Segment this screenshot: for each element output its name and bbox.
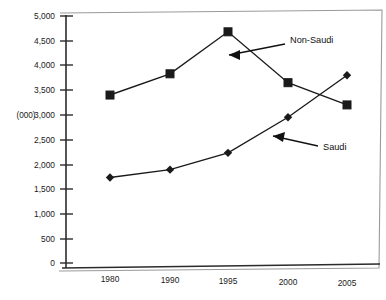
y-tick-label-1500: 1,500 xyxy=(34,184,55,194)
y-tick-label-3500: 3,500 xyxy=(34,85,55,95)
plot-frame xyxy=(59,10,382,271)
data-point-marker xyxy=(284,113,292,121)
x-tick-label-1990: 1990 xyxy=(161,275,180,285)
data-point-marker xyxy=(166,165,174,173)
y-tick-label-2000: 2,000 xyxy=(34,160,55,170)
x-tick-label-2000: 2000 xyxy=(279,277,298,287)
series-line-saudi xyxy=(110,75,347,177)
x-tick-label-1980: 1980 xyxy=(101,274,120,284)
chart-canvas: 5,000 4,500 4,000 3,500 3,000 2,500 2,00… xyxy=(0,0,386,300)
x-axis-line xyxy=(62,264,380,268)
y-tick-label-4000: 4,000 xyxy=(34,60,55,70)
y-tick-label-4500: 4,500 xyxy=(34,36,55,46)
series-markers-saudi xyxy=(106,71,351,182)
data-point-marker xyxy=(106,91,114,99)
y-tick-label-500: 500 xyxy=(41,234,55,244)
line-chart: 5,000 4,500 4,000 3,500 3,000 2,500 2,00… xyxy=(0,0,386,300)
annotation-label-saudi: Saudi xyxy=(323,142,347,152)
y-tick-label-1000: 1,000 xyxy=(34,209,55,219)
y-tick-label-5000: 5,000 xyxy=(34,11,55,21)
y-tick-label-3000: 3,000 xyxy=(34,110,55,120)
annotation-arrow-saudi xyxy=(273,132,318,146)
x-tick-label-1995: 1995 xyxy=(219,276,238,286)
data-point-marker xyxy=(224,149,232,157)
data-point-marker xyxy=(224,28,232,36)
data-point-marker xyxy=(284,79,292,87)
annotation-arrow-non-saudi xyxy=(229,44,285,60)
y-tick-label-0: 0 xyxy=(50,258,55,268)
data-point-marker xyxy=(166,70,174,78)
annotation-label-non-saudi: Non-Saudi xyxy=(290,35,333,45)
y-tick-label-2500: 2,500 xyxy=(34,135,55,145)
x-tick-label-2005: 2005 xyxy=(338,278,357,288)
data-point-marker xyxy=(343,101,351,109)
data-point-marker xyxy=(106,173,114,181)
y-axis-title: (000) xyxy=(16,111,35,120)
